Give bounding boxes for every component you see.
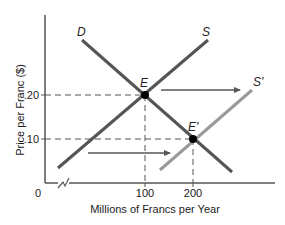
equilibrium-label-e: E [140,76,149,90]
x-axis-title: Millions of Francs per Year [90,203,220,215]
supply-shifted-label: S' [253,75,264,89]
guide-lines [45,95,193,183]
demand-curve [82,40,232,172]
axis-break-icon [58,178,69,188]
supply-shifted-curve [160,90,252,170]
supply-demand-chart: D S S' E E' .20 .10 0 100 200 Millions o… [0,0,285,225]
y-axis-title: Price per Franc ($) [14,64,26,156]
equilibrium-point-e2 [189,135,197,143]
x-tick-label-0: 0 [35,187,41,199]
equilibrium-label-e2: E' [188,120,199,134]
x-tick-label-100: 100 [136,187,154,199]
demand-label: D [77,25,86,39]
x-tick-label-200: 200 [184,187,202,199]
supply-label: S [202,25,210,39]
equilibrium-point-e [141,91,149,99]
